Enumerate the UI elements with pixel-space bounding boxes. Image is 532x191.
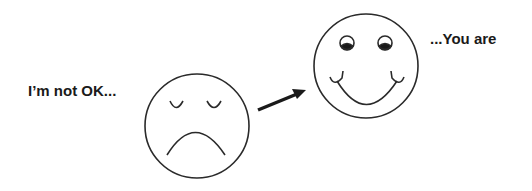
frown-icon (167, 133, 225, 156)
sad-face-icon (145, 74, 249, 178)
happy-right-eye-icon (378, 36, 392, 50)
sad-left-eye-icon (170, 101, 183, 108)
smile-icon (337, 81, 397, 105)
right-dimple-icon (391, 71, 404, 82)
happy-face-icon (314, 14, 418, 118)
diagram-canvas (0, 0, 532, 191)
sad-right-eye-icon (207, 101, 221, 108)
happy-left-eye-icon (340, 36, 354, 50)
left-dimple-icon (330, 71, 343, 82)
arrow-icon (258, 89, 306, 110)
